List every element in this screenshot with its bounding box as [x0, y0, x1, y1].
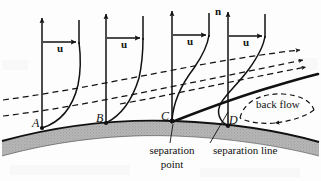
velocity-label-b: u	[121, 39, 127, 50]
back-flow-caption: back flow	[256, 99, 300, 110]
separation-point-caption-line2: point	[126, 159, 218, 170]
station-label-d: D	[229, 114, 238, 126]
separation-line-caption: separation line	[213, 145, 277, 156]
separation-diagram-figure: n u u u u A B C D separation point separ…	[0, 0, 321, 181]
velocity-label-c: u	[187, 36, 193, 47]
station-label-b: B	[96, 112, 103, 124]
station-B-group	[106, 14, 143, 123]
velocity-label-a: u	[57, 43, 63, 54]
station-label-a: A	[32, 117, 39, 129]
station-C-group	[172, 11, 209, 121]
station-A-group	[42, 18, 80, 128]
separation-point-caption-line1: separation	[126, 145, 218, 156]
velocity-label-d: u	[243, 37, 249, 48]
normal-axis-label: n	[215, 6, 221, 17]
station-label-c: C	[161, 110, 169, 122]
